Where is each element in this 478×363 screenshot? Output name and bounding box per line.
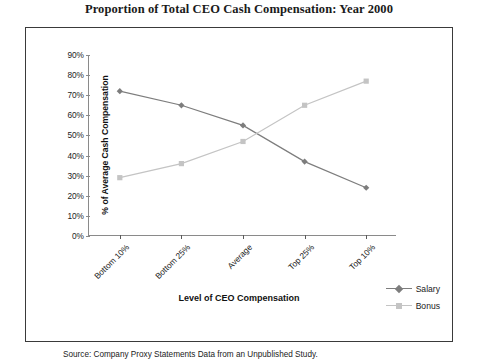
data-point-bonus bbox=[240, 139, 245, 144]
legend-label: Bonus bbox=[416, 301, 440, 311]
legend-swatch-square-icon bbox=[386, 301, 412, 310]
chart-legend: SalaryBonus bbox=[386, 283, 440, 317]
legend-label: Salary bbox=[416, 284, 440, 294]
data-point-bonus bbox=[364, 79, 369, 84]
data-point-salary bbox=[117, 88, 123, 94]
y-axis-tick-0: 0% bbox=[44, 231, 89, 241]
data-point-salary bbox=[363, 185, 369, 191]
series-line-bonus bbox=[120, 81, 366, 178]
y-axis-tick-20: 20% bbox=[44, 191, 89, 201]
y-axis-tick-30: 30% bbox=[44, 171, 89, 181]
y-axis-tick-80: 80% bbox=[44, 70, 89, 80]
page-title: Proportion of Total CEO Cash Compensatio… bbox=[0, 2, 478, 17]
data-point-salary bbox=[302, 158, 308, 164]
y-axis-tick-70: 70% bbox=[44, 90, 89, 100]
y-axis-tick-10: 10% bbox=[44, 211, 89, 221]
y-axis-tick-90: 90% bbox=[44, 50, 89, 60]
x-axis-tick-label: Top 25% bbox=[286, 242, 316, 272]
y-axis-tick-50: 50% bbox=[44, 130, 89, 140]
legend-swatch-diamond-icon bbox=[386, 284, 412, 293]
y-axis-tick-40: 40% bbox=[44, 151, 89, 161]
x-axis-tick-label: Top 10% bbox=[347, 242, 377, 272]
data-point-salary bbox=[178, 102, 184, 108]
x-axis-tick-label: Bottom 25% bbox=[153, 242, 192, 281]
legend-item-bonus[interactable]: Bonus bbox=[386, 300, 440, 311]
data-point-bonus bbox=[179, 161, 184, 166]
x-axis-tick-label: Bottom 10% bbox=[92, 242, 131, 281]
x-axis-tick-label: Average bbox=[225, 242, 254, 271]
plot-area: % of Average Cash Compensation 90%80%70%… bbox=[88, 55, 396, 236]
data-point-salary bbox=[240, 122, 246, 128]
y-axis-tick-60: 60% bbox=[44, 110, 89, 120]
legend-item-salary[interactable]: Salary bbox=[386, 283, 440, 294]
data-point-bonus bbox=[302, 103, 307, 108]
series-plot bbox=[89, 55, 397, 236]
chart-frame: % of Average Cash Compensation 90%80%70%… bbox=[25, 27, 453, 342]
data-point-bonus bbox=[117, 175, 122, 180]
source-note: Source: Company Proxy Statements Data fr… bbox=[63, 350, 318, 359]
